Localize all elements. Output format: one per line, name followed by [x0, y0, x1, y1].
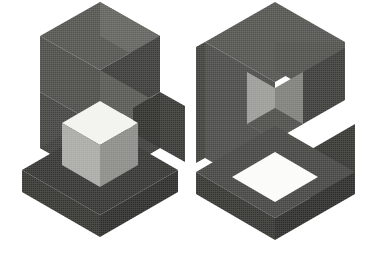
isometric-logo-graphic	[0, 0, 386, 258]
left-outer-shadow	[196, 42, 205, 163]
logo-canvas	[0, 0, 386, 258]
